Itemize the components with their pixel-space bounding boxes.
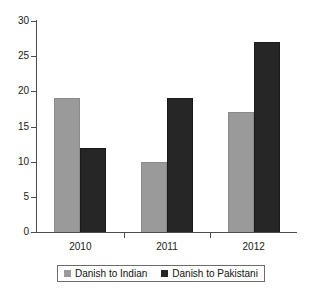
legend-swatch-icon <box>64 270 71 277</box>
y-axis-tick-label: 30 <box>18 16 29 26</box>
y-axis-tick-label: 25 <box>18 51 29 61</box>
legend-entry: Danish to Pakistani <box>161 268 258 279</box>
legend-label: Danish to Pakistani <box>172 268 258 279</box>
x-axis-tick-mark <box>124 233 125 238</box>
y-axis-tick-label: 15 <box>18 122 29 132</box>
y-axis-tick-label: 5 <box>23 192 29 202</box>
y-axis-tick-mark <box>31 232 36 233</box>
x-axis-tick-label: 2010 <box>60 241 100 252</box>
bar <box>254 42 280 232</box>
plot-area <box>37 21 297 232</box>
y-axis-tick-label: 10 <box>18 157 29 167</box>
y-axis-tick-label: 20 <box>18 86 29 96</box>
y-axis-tick-mark <box>31 127 36 128</box>
y-axis-tick-mark <box>31 56 36 57</box>
y-axis-tick-mark <box>31 91 36 92</box>
y-axis-tick-mark <box>31 21 36 22</box>
bar <box>54 98 80 232</box>
bar <box>80 148 106 232</box>
legend-entry: Danish to Indian <box>64 268 147 279</box>
x-axis-tick-label: 2012 <box>234 241 274 252</box>
x-axis-line <box>36 232 297 233</box>
y-axis-tick-mark <box>31 162 36 163</box>
x-axis-tick-label: 2011 <box>147 241 187 252</box>
bar-chart: 051015202530 201020112012 Danish to Indi… <box>0 0 313 291</box>
y-axis-tick-mark <box>31 197 36 198</box>
chart-legend: Danish to IndianDanish to Pakistani <box>57 265 265 282</box>
y-axis-tick-label: 0 <box>23 227 29 237</box>
x-axis-tick-mark <box>210 233 211 238</box>
bar <box>167 98 193 232</box>
bar <box>141 162 167 232</box>
legend-label: Danish to Indian <box>75 268 147 279</box>
bar <box>228 112 254 232</box>
legend-swatch-icon <box>161 270 168 277</box>
